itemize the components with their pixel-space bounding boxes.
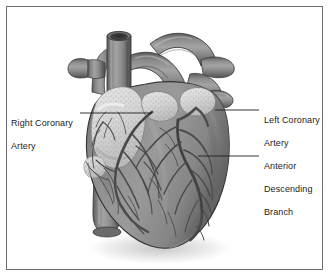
label-anterior-descending-branch-line1: Anterior	[264, 161, 328, 173]
label-anterior-descending-branch-line3: Branch	[264, 207, 328, 219]
heart-anatomy-figure: Right Coronary Artery Left Coronary Arte…	[0, 0, 331, 278]
label-left-coronary-artery-line1: Left Coronary	[264, 115, 330, 127]
label-left-coronary-artery-line2: Artery	[264, 138, 330, 150]
label-right-coronary-artery-line1: Right Coronary	[11, 118, 85, 130]
label-anterior-descending-branch-line2: Descending	[264, 184, 328, 196]
label-anterior-descending-branch: Anterior Descending Branch	[264, 149, 328, 230]
label-right-coronary-artery: Right Coronary Artery	[11, 106, 85, 164]
label-right-coronary-artery-line2: Artery	[11, 141, 85, 153]
